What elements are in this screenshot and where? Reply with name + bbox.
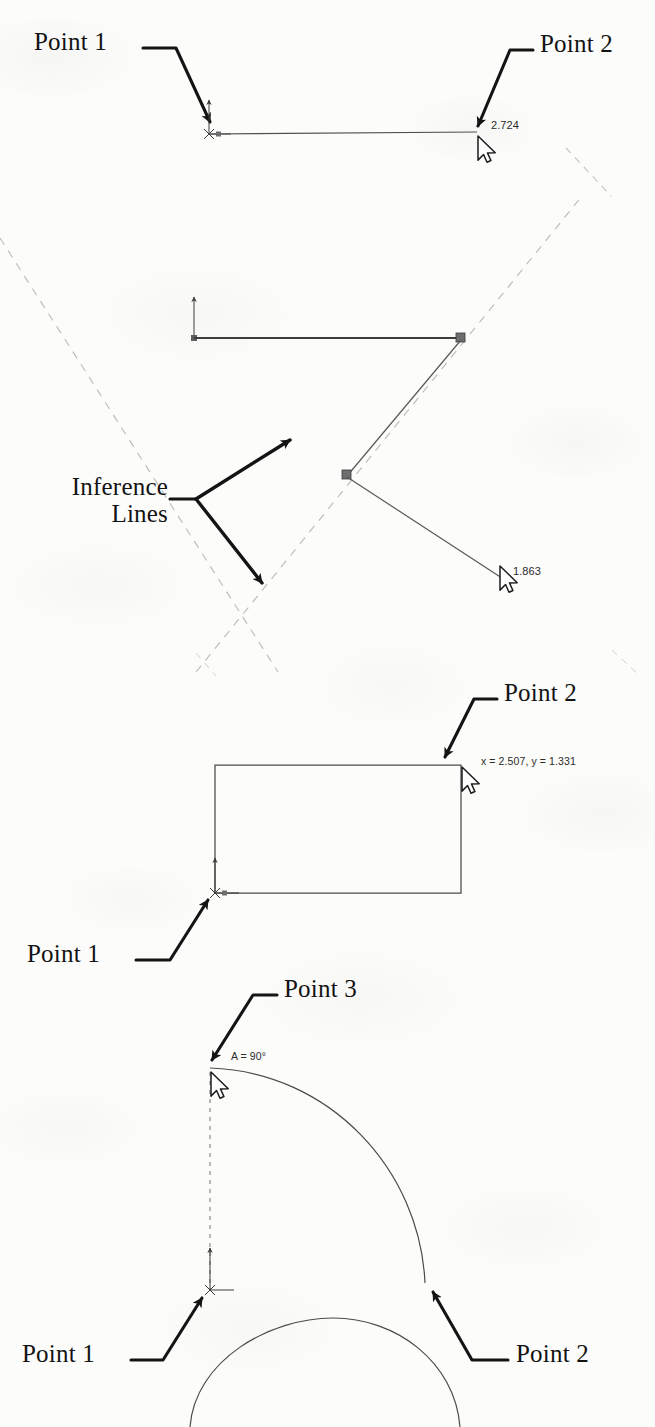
- label-point2-panel3: Point 2: [504, 679, 577, 707]
- cursor-pointer-panel4: [211, 1072, 228, 1098]
- leader-inference-lines: [170, 440, 290, 583]
- label-inference-lines-row1: Inference: [22, 473, 168, 500]
- label-inference-lines-panel2: Inference Lines: [22, 473, 168, 527]
- readout-coordinates-panel3: x = 2.507, y = 1.331: [481, 755, 576, 767]
- next-figure-arc-fragment: [190, 1318, 460, 1427]
- leader-point2-panel4: [433, 1292, 508, 1360]
- inference-remnant: [196, 653, 216, 676]
- label-point1-panel4: Point 1: [22, 1340, 95, 1368]
- leader-point1-panel3: [136, 900, 208, 960]
- inference-line-ascending: [196, 196, 582, 672]
- origin-marker-panel2: [191, 297, 197, 341]
- origin-marker-panel4: [205, 1248, 234, 1295]
- readout-length-panel1: 2.724: [491, 119, 519, 131]
- panel-arc-graphics: [131, 995, 508, 1427]
- cursor-pointer-panel3: [462, 767, 479, 793]
- midpoint-handle: [342, 470, 351, 479]
- endpoint-handle: [222, 891, 227, 896]
- figure-page: Point 1 Point 2 2.724 Inference Lines 1.…: [0, 0, 655, 1427]
- label-point3-panel4: Point 3: [284, 975, 357, 1003]
- technical-illustration: [0, 0, 655, 1427]
- readout-length-panel2: 1.863: [513, 565, 541, 577]
- readout-angle-panel4: A = 90°: [231, 1050, 266, 1062]
- sketch-line-diagonal-upper-panel2: [347, 340, 461, 476]
- sketch-line-diagonal-lower-panel2: [347, 477, 508, 582]
- label-inference-lines-row2: Lines: [22, 500, 168, 527]
- leader-point2-panel1: [478, 50, 533, 126]
- label-point1-panel3: Point 1: [27, 940, 100, 968]
- inference-remnant: [612, 650, 640, 676]
- leader-point2-panel3: [445, 699, 497, 757]
- panel-line-graphics: [143, 48, 611, 196]
- cursor-pointer-panel1: [478, 136, 495, 162]
- endpoint-handle: [216, 132, 221, 137]
- label-point1-panel1: Point 1: [34, 28, 107, 56]
- sketch-arc: [210, 1068, 425, 1283]
- inference-line-descending: [0, 238, 278, 672]
- sketch-rectangle: [215, 765, 461, 893]
- label-point2-panel1: Point 2: [540, 30, 613, 58]
- panel-inference-graphics: [0, 196, 582, 672]
- sketch-line-panel1: [209, 132, 477, 134]
- leader-point1-panel4: [131, 1298, 202, 1360]
- inference-ray: [566, 148, 611, 196]
- label-point2-panel4: Point 2: [516, 1340, 589, 1368]
- leader-point1-panel1: [143, 48, 210, 122]
